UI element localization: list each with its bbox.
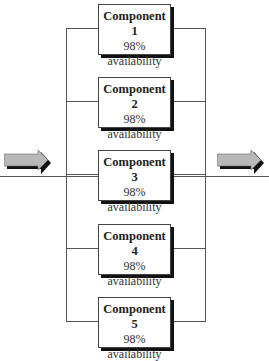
availability-label: availability <box>99 54 170 68</box>
availability-label: availability <box>99 347 170 361</box>
right-bus <box>205 28 206 322</box>
branch-line-right <box>171 28 206 29</box>
branch-line-left <box>66 321 99 322</box>
branch-line-right <box>171 101 206 102</box>
component-title: Component 4 <box>99 229 170 259</box>
availability-value: 98% <box>99 259 170 274</box>
branch-line-left <box>66 28 99 29</box>
branch-line-right <box>171 174 206 175</box>
availability-label: availability <box>99 274 170 288</box>
availability-label: availability <box>99 127 170 141</box>
availability-value: 98% <box>99 39 170 54</box>
left-bus <box>66 28 67 322</box>
branch-line-right <box>171 248 206 249</box>
branch-line-left <box>66 248 99 249</box>
branch-line-left <box>66 101 99 102</box>
component-box: Component 398%availability <box>98 150 171 201</box>
component-title: Component 5 <box>99 302 170 332</box>
branch-line-left <box>66 174 99 175</box>
availability-value: 98% <box>99 185 170 200</box>
availability-value: 98% <box>99 332 170 347</box>
availability-value: 98% <box>99 112 170 127</box>
component-title: Component 3 <box>99 155 170 185</box>
branch-line-right <box>171 321 206 322</box>
component-box: Component 598%availability <box>98 297 171 348</box>
availability-label: availability <box>99 200 170 214</box>
output-arrow-icon <box>217 150 267 178</box>
component-box: Component 498%availability <box>98 224 171 275</box>
component-title: Component 1 <box>99 9 170 39</box>
component-title: Component 2 <box>99 82 170 112</box>
component-box: Component 198%availability <box>98 4 171 55</box>
input-arrow-icon <box>4 150 54 178</box>
component-box: Component 298%availability <box>98 77 171 128</box>
